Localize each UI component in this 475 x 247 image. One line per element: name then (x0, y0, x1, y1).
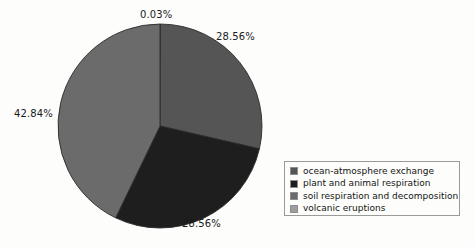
pie-chart: 0.03% 28.56% 42.84% 28.56% ocean-atmosph… (0, 0, 475, 247)
legend-item[interactable]: plant and animal respiration (290, 178, 455, 190)
legend-item[interactable]: soil respiration and decomposition (290, 190, 455, 202)
legend-item-label: volcanic eruptions (303, 203, 385, 214)
legend-item[interactable]: volcanic eruptions (290, 203, 455, 215)
legend-item-label: soil respiration and decomposition (303, 191, 458, 202)
slice-value-label-soil-respiration: 42.84% (14, 108, 53, 119)
slice-value-label-volcanic-eruptions: 0.03% (140, 9, 172, 20)
legend-swatch-icon (290, 192, 298, 200)
legend-item-label: plant and animal respiration (303, 178, 430, 189)
slice-value-label-ocean-atmosphere-exchange: 28.56% (216, 31, 255, 42)
slice-value-label-plant-animal-respiration: 28.56% (182, 218, 221, 229)
legend-swatch-icon (290, 180, 298, 188)
chart-legend: ocean-atmosphere exchangeplant and anima… (284, 161, 460, 216)
legend-swatch-icon (290, 167, 298, 175)
pie-slice-group (58, 24, 262, 228)
legend-swatch-icon (290, 205, 298, 213)
legend-item-label: ocean-atmosphere exchange (303, 166, 434, 177)
legend-item[interactable]: ocean-atmosphere exchange (290, 165, 455, 177)
